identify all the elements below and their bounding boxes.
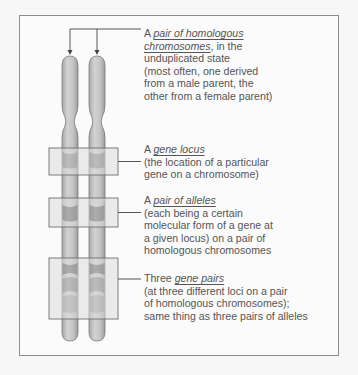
annotation-gene-locus: A gene locus (the location of a particul… [144, 143, 269, 181]
annotation-gene-pairs: Three gene pairs (at three different loc… [144, 272, 308, 322]
annotation-line: gene on a chromosome) [144, 168, 269, 181]
annotation-line: of homologous chromosomes); [144, 297, 308, 310]
annotation-line: (most often, one derived [144, 65, 272, 78]
annotation-line: homologous chromosomes [144, 244, 273, 257]
arrowhead-icon [68, 50, 100, 55]
term-pair-of-homologous: pair of homologous [153, 27, 243, 39]
annotation-prefix: Three [144, 272, 175, 284]
annotation-homologous-pair: A pair of homologous chromosomes, in the… [144, 27, 272, 103]
annotation-line: from a male parent, the [144, 77, 272, 90]
annotation-line: , in the [211, 40, 243, 52]
annotation-line: (each being a certain [144, 207, 273, 220]
annotation-line: (at three different loci on a pair [144, 285, 308, 298]
allele-pair-box [49, 198, 141, 227]
term-gene-locus: gene locus [153, 143, 204, 155]
annotation-line: (the location of a particular [144, 156, 269, 169]
homologous-pair-pointer [70, 29, 141, 52]
gene-pairs-box [49, 258, 141, 319]
gene-locus-box [49, 148, 141, 175]
term-gene-pairs: gene pairs [175, 272, 224, 284]
annotation-line: unduplicated state [144, 52, 272, 65]
term-chromosomes: chromosomes [144, 40, 211, 52]
annotation-line: a given locus) on a pair of [144, 232, 273, 245]
annotation-line: molecular form of a gene at [144, 219, 273, 232]
annotation-line: same thing as three pairs of alleles [144, 310, 308, 323]
annotation-line: other from a female parent) [144, 90, 272, 103]
annotation-pair-of-alleles: A pair of alleles (each being a certain … [144, 194, 273, 257]
term-pair-of-alleles: pair of alleles [153, 194, 215, 206]
